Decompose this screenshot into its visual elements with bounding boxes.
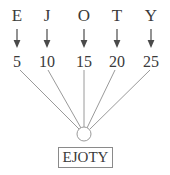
result-box: EJOTY (58, 147, 113, 168)
letter-label-y: Y (129, 6, 170, 26)
result-label: EJOTY (63, 149, 109, 166)
number-label-25: 25 (129, 52, 170, 72)
ejoty-diagram: E 5 J 10 O 15 T (0, 0, 170, 175)
line-from-20 (87, 70, 115, 128)
down-arrow-icon-y (129, 29, 170, 49)
line-from-10 (48, 70, 81, 128)
line-from-5 (20, 70, 79, 129)
junction-circle (77, 127, 91, 141)
converging-lines (20, 70, 150, 129)
line-from-25 (90, 70, 150, 129)
